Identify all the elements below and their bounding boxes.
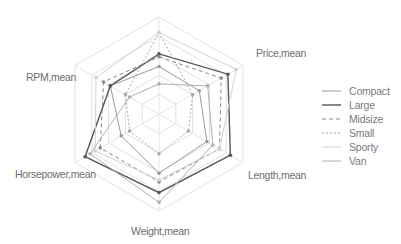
grid-spoke [75,114,159,163]
data-point[interactable] [119,134,123,138]
data-point[interactable] [157,201,161,205]
axis-label-price: Price,mean [256,47,307,59]
axis-label-length: Length,mean [248,169,306,181]
legend-item-sporty[interactable]: Sporty [322,141,379,153]
data-point[interactable] [211,143,215,147]
data-point[interactable] [205,140,209,144]
data-point[interactable] [94,76,98,80]
data-point[interactable] [93,149,97,153]
data-point[interactable] [157,171,161,175]
axis-label-horsepower: Horsepower,mean [15,168,96,180]
legend-label: Small [349,127,374,139]
data-point[interactable] [83,155,87,159]
data-point[interactable] [157,152,161,156]
legend-label: Midsize [349,113,384,125]
radar-series [83,31,238,204]
data-point[interactable] [198,89,202,93]
legend-label: Compact [349,85,390,97]
legend-item-midsize[interactable]: Midsize [322,113,384,125]
legend-item-van[interactable]: Van [322,155,367,167]
data-point[interactable] [187,129,191,133]
data-point[interactable] [157,191,161,195]
series-van [88,82,214,204]
legend-item-compact[interactable]: Compact [322,85,390,97]
data-point[interactable] [157,31,161,35]
data-point[interactable] [124,93,128,97]
data-point[interactable] [109,84,113,88]
data-point[interactable] [157,82,161,86]
data-point[interactable] [226,72,230,76]
axis-label-rpm: RPM,mean [26,71,77,83]
series-midsize [98,55,223,184]
data-point[interactable] [206,84,210,88]
axis-label-weight: Weight,mean [131,225,190,237]
legend-item-small[interactable]: Small [322,127,374,139]
data-point[interactable] [88,152,92,156]
legend-label: Van [349,155,367,167]
data-point[interactable] [102,80,106,84]
data-point[interactable] [157,55,161,59]
data-point[interactable] [218,147,222,151]
legend: Compact Large Midsize Small Sporty Van [322,85,390,167]
data-point[interactable] [157,65,161,69]
data-point[interactable] [157,178,161,182]
data-point[interactable] [191,93,195,97]
legend-label: Sporty [349,141,379,153]
data-point[interactable] [128,129,132,133]
data-point[interactable] [128,95,132,99]
data-point[interactable] [229,153,233,157]
radar-chart: Price,mean Length,mean Weight,mean Horse… [0,0,401,244]
data-point[interactable] [235,68,239,72]
legend-label: Large [349,99,375,111]
grid-spoke [159,66,243,115]
legend-item-large[interactable]: Large [322,99,375,111]
data-point[interactable] [98,146,102,150]
data-point[interactable] [219,76,223,80]
